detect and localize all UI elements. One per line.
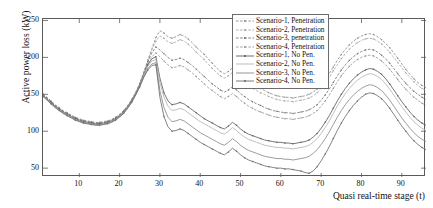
y-tick-label: 200 [17, 52, 39, 61]
x-tick-label: 80 [356, 179, 364, 188]
x-tick-label: 90 [397, 179, 405, 188]
y-tick-label: 250 [17, 15, 39, 24]
x-tick-label: 10 [74, 179, 82, 188]
legend-swatch-icon [235, 69, 255, 77]
legend-swatch-icon [235, 17, 255, 25]
figure: Active power loss (kW) 50100150200250 10… [0, 0, 433, 208]
legend-item[interactable]: Scenario-4, No Pen. [235, 77, 325, 86]
x-tick-label: 30 [155, 179, 163, 188]
y-tick-label: 100 [17, 126, 39, 135]
legend-swatch-icon [235, 26, 255, 34]
x-tick-label: 50 [236, 179, 244, 188]
legend-item-label: Scenario-4, No Pen. [255, 77, 315, 86]
x-tick-label: 20 [115, 179, 123, 188]
x-tick-label: 70 [316, 179, 324, 188]
legend-swatch-icon [235, 60, 255, 68]
legend: Scenario-1, PenetrationScenario-2, Penet… [232, 14, 329, 89]
y-axis-ticks: 50100150200250 [15, 0, 39, 208]
legend-swatch-icon [235, 52, 255, 60]
y-tick-label: 150 [17, 89, 39, 98]
y-tick-label: 50 [17, 163, 39, 172]
x-tick-label: 40 [195, 179, 203, 188]
legend-swatch-icon [235, 34, 255, 42]
x-tick-label: 60 [276, 179, 284, 188]
legend-swatch-icon [235, 43, 255, 51]
legend-swatch-icon [235, 77, 255, 85]
x-axis-label: Quasi real-time stage (t) [0, 191, 433, 201]
